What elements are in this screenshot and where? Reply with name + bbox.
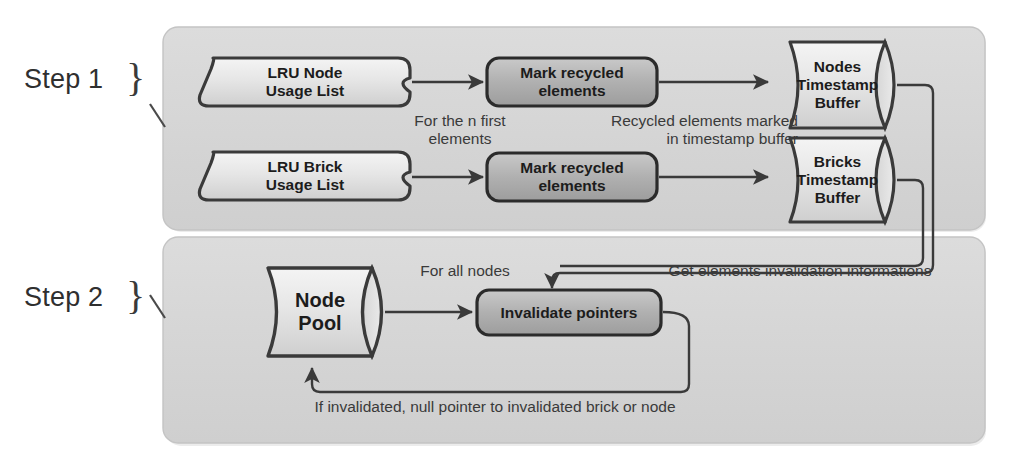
- edge-label-get-elements-invalidation: Get elements invalidation informations: [620, 262, 980, 280]
- mark-recycled-nodes-shape: [487, 58, 657, 106]
- lru-brick-usage-list-shape: [199, 152, 410, 200]
- diagram-graphics-layer: [0, 0, 1028, 466]
- edge-label-for-all-nodes: For all nodes: [390, 262, 540, 280]
- step-1-brace: }: [126, 54, 145, 101]
- diagram-canvas: Step 1 } Step 2 } LRU Node Usage List Ma…: [0, 0, 1028, 466]
- nodes-timestamp-buffer-shape: [790, 42, 894, 128]
- invalidate-pointers-shape: [477, 290, 661, 335]
- step-2-brace: }: [126, 272, 145, 319]
- step-1-label: Step 1: [24, 64, 103, 96]
- lru-node-usage-list-shape: [199, 58, 410, 106]
- edge-label-for-the-n-first-elements: For the n first elements: [395, 112, 525, 149]
- bricks-timestamp-buffer-shape: [790, 138, 894, 222]
- edge-label-if-invalidated-null-pointer: If invalidated, null pointer to invalida…: [215, 398, 775, 416]
- edge-label-recycled-elements-marked: Recycled elements marked in timestamp bu…: [540, 112, 798, 149]
- mark-recycled-bricks-shape: [487, 153, 657, 201]
- node-pool-shape: [268, 268, 382, 356]
- step-2-label: Step 2: [24, 282, 103, 314]
